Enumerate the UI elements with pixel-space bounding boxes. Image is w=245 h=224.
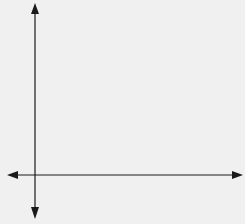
- y-axis-up-arrow-icon: [31, 3, 39, 14]
- x-axis-right-arrow-icon: [232, 171, 243, 179]
- x-axis-left-arrow-icon: [7, 171, 18, 179]
- y-axis-down-arrow-icon: [31, 207, 39, 219]
- coordinate-axes: [0, 0, 245, 224]
- diagram-canvas: [0, 0, 245, 224]
